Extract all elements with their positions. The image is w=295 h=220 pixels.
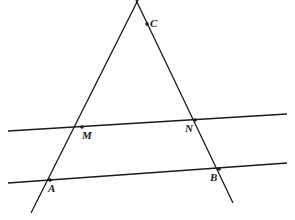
label-n: N: [184, 122, 194, 134]
point-b: [217, 167, 221, 171]
label-m: M: [81, 129, 93, 141]
point-c: [145, 22, 149, 26]
label-c: C: [150, 17, 158, 29]
labels-layer: C M N A B: [47, 17, 217, 194]
line-through-m-n: [8, 114, 287, 131]
geometry-diagram: C M N A B: [0, 0, 295, 220]
label-b: B: [209, 171, 217, 183]
points-layer: [48, 22, 221, 182]
point-n: [193, 118, 197, 122]
label-a: A: [47, 182, 55, 194]
